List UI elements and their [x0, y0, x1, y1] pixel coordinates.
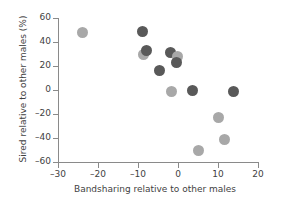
data-point [219, 134, 230, 145]
x-tick-mark [138, 163, 139, 168]
y-axis-spine [58, 18, 59, 163]
x-tick-mark [178, 163, 179, 168]
scatter-chart: Sired relative to other males (%) Bandsh… [0, 0, 289, 202]
y-tick-mark [53, 18, 58, 19]
y-tick-mark [53, 66, 58, 67]
y-tick-label: –40 [21, 133, 51, 142]
y-tick-mark [53, 138, 58, 139]
y-tick-label: 0 [21, 85, 51, 94]
data-point [141, 45, 152, 56]
data-point [154, 65, 165, 76]
y-tick-label: 60 [21, 13, 51, 22]
x-tick-label: 10 [201, 170, 235, 179]
y-tick-label: 40 [21, 37, 51, 46]
x-axis-spine [58, 162, 259, 163]
y-tick-label: –20 [21, 109, 51, 118]
y-tick-mark [53, 90, 58, 91]
x-tick-label: 0 [161, 170, 195, 179]
y-tick-label: 20 [21, 61, 51, 70]
x-tick-label: –10 [121, 170, 155, 179]
x-tick-mark [258, 163, 259, 168]
x-tick-label: 20 [241, 170, 275, 179]
data-point [213, 112, 224, 123]
data-point [77, 27, 88, 38]
x-tick-mark [58, 163, 59, 168]
y-tick-label: –60 [21, 157, 51, 166]
data-point [166, 86, 177, 97]
x-tick-label: –20 [81, 170, 115, 179]
y-tick-mark [53, 114, 58, 115]
y-tick-mark [53, 42, 58, 43]
data-point [193, 145, 204, 156]
data-point [137, 26, 148, 37]
data-point [171, 57, 182, 68]
plot-area [58, 18, 258, 162]
data-point [228, 86, 239, 97]
data-point [187, 85, 198, 96]
x-tick-label: –30 [41, 170, 75, 179]
x-tick-mark [218, 163, 219, 168]
x-tick-mark [98, 163, 99, 168]
x-axis-title: Bandsharing relative to other males [40, 184, 270, 194]
